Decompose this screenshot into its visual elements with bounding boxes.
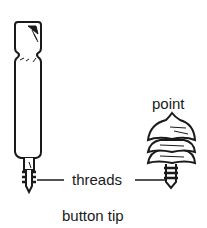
diagram-canvas [0,0,207,228]
label-threads: threads [72,172,122,187]
shaft-illustration [15,22,41,192]
button-tip-illustration [148,113,195,188]
diagram-caption: button tip [62,208,124,223]
label-point: point [152,96,185,111]
